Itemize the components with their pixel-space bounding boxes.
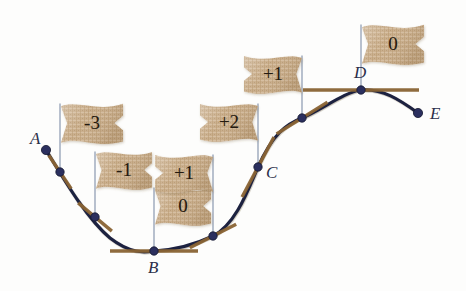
flag-plus1-b-text: +1	[174, 163, 194, 182]
point-label-E: E	[430, 105, 440, 122]
flag-zero-d-value: 0	[362, 26, 424, 62]
flag-plus2-c-value: +2	[200, 105, 258, 139]
curve-point-A	[41, 145, 50, 154]
point-label-A: A	[30, 130, 40, 147]
flag-minus3-value: -3	[61, 105, 123, 141]
flag-plus1-c-text: +1	[263, 64, 283, 83]
curve-point-P1	[56, 168, 64, 176]
point-label-D: D	[354, 64, 366, 81]
flag-plus1-b-value: +1	[155, 156, 213, 190]
diagram-canvas: ABCDE -3-10+1+2+10	[0, 0, 466, 291]
curve-point-D	[357, 86, 365, 94]
curve-point-P3	[209, 232, 217, 240]
curve-point-P4	[298, 114, 306, 122]
flag-zero-b-value: 0	[155, 189, 211, 223]
point-label-B: B	[148, 259, 158, 276]
flag-minus3-text: -3	[84, 113, 100, 132]
curve-point-B	[150, 247, 158, 255]
point-label-C: C	[266, 164, 277, 181]
flag-plus2-c-text: +2	[219, 112, 239, 131]
flag-zero-b-text: 0	[178, 196, 188, 215]
curve-point-P2	[91, 213, 99, 221]
flag-minus1-text: -1	[116, 160, 132, 179]
flag-minus1-value: -1	[96, 153, 152, 187]
curve-point-C	[254, 163, 262, 171]
flag-zero-d-text: 0	[388, 34, 398, 53]
flag-plus1-c-value: +1	[244, 57, 302, 91]
curve-point-E	[413, 108, 422, 117]
